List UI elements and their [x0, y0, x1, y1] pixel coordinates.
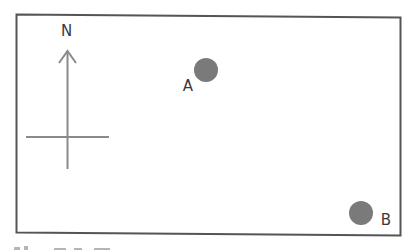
map-frame	[17, 15, 401, 236]
cropped-caption	[14, 246, 110, 250]
north-label: N	[61, 22, 72, 40]
point-a-marker-icon	[194, 58, 218, 82]
point-b-label: B	[381, 211, 391, 229]
map-diagram: N A B	[0, 0, 414, 250]
point-b-marker-icon	[349, 201, 373, 225]
compass-rose-icon	[26, 51, 109, 169]
point-a-label: A	[183, 77, 194, 95]
